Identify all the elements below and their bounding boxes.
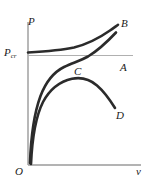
curve-label-d: D — [116, 110, 124, 121]
pcr-main-symbol: P — [4, 46, 11, 58]
curve-label-b: B — [121, 18, 128, 29]
pv-diagram-figure: P v O Pcr A B C D — [0, 0, 151, 188]
plot-canvas — [0, 0, 151, 188]
critical-pressure-tick-label: Pcr — [4, 47, 17, 58]
pcr-subscript: cr — [11, 52, 17, 60]
curve-label-a: A — [120, 62, 127, 73]
curve-supercritical-to-B — [28, 25, 118, 53]
y-axis-label: P — [28, 16, 35, 27]
curve-label-c: C — [74, 66, 81, 77]
x-axis-label: v — [136, 166, 141, 177]
origin-label: O — [15, 166, 23, 177]
